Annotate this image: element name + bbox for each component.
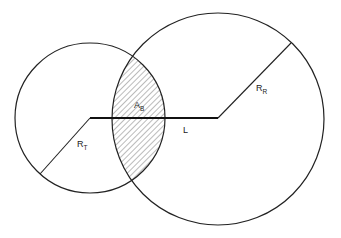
- label-distance-l: L: [183, 125, 188, 135]
- intersecting-circles-diagram: AB RT RR L: [0, 0, 341, 238]
- label-radius-r: RR: [256, 83, 268, 95]
- label-radius-r-sub: R: [263, 88, 268, 95]
- label-radius-t: RT: [77, 139, 88, 151]
- label-radius-t-sub: T: [84, 144, 88, 151]
- radius-line-r: [218, 43, 291, 118]
- label-area-b-sub: B: [140, 105, 144, 112]
